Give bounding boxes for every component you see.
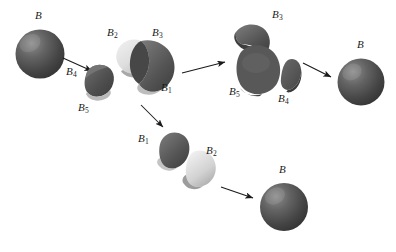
piece-b1-bottom [157, 133, 189, 171]
label-piece-b4-arrow: B4 [66, 66, 76, 77]
label-piece-b1-middle: B1 [161, 82, 171, 93]
label-piece-b3-middle-base: B [152, 26, 159, 38]
label-result-sphere-top-base: B [357, 38, 364, 50]
label-piece-b1-middle-base: B [161, 81, 168, 93]
label-piece-b2-middle: B2 [107, 27, 117, 38]
label-source-sphere: B [35, 10, 42, 21]
label-piece-b3-right: B3 [272, 9, 282, 20]
label-piece-b3-middle-sub: 3 [159, 31, 163, 40]
label-result-sphere-top: B [357, 39, 364, 50]
label-piece-b5-right: B5 [229, 86, 239, 97]
piece-b5-right [236, 45, 280, 96]
label-piece-b1-bottom-base: B [138, 132, 145, 144]
label-piece-b2-bottom-sub: 2 [213, 149, 217, 158]
label-piece-b5-left: B5 [78, 102, 88, 113]
label-piece-b2-middle-base: B [107, 26, 114, 38]
result-sphere-top [338, 59, 385, 106]
label-piece-b4-right-base: B [278, 92, 285, 104]
label-piece-b5-left-base: B [78, 101, 85, 113]
label-source-sphere-base: B [35, 9, 42, 21]
label-result-sphere-bottom-base: B [279, 163, 286, 175]
piece-b5-left [85, 65, 114, 101]
label-piece-b5-right-base: B [229, 85, 236, 97]
label-piece-b4-right-sub: 4 [285, 97, 289, 106]
arrow-split-to-bottom-row [141, 105, 163, 127]
label-piece-b2-bottom: B2 [206, 145, 216, 156]
figure-canvas [0, 0, 396, 252]
result-sphere-bottom [260, 183, 308, 231]
banach-tarski-figure: B B4 B5 B2 B3 B1 B3 B5 B4 B B1 B2 B [0, 0, 396, 252]
label-piece-b3-right-sub: 3 [279, 13, 283, 22]
label-piece-b1-bottom: B1 [138, 133, 148, 144]
label-piece-b3-middle: B3 [152, 27, 162, 38]
label-piece-b5-left-sub: 5 [85, 106, 89, 115]
label-piece-b1-bottom-sub: 1 [145, 137, 149, 146]
arrow-bottom-row-to-sphere [221, 187, 253, 198]
arrow-top-cluster-to-sphere [303, 63, 331, 77]
label-piece-b4-arrow-sub: 4 [73, 70, 77, 79]
piece-b4-right [281, 59, 302, 92]
label-piece-b5-right-sub: 5 [236, 90, 240, 99]
label-piece-b1-middle-sub: 1 [168, 86, 172, 95]
label-piece-b3-right-base: B [272, 8, 279, 20]
label-result-sphere-bottom: B [279, 164, 286, 175]
label-piece-b4-right: B4 [278, 93, 288, 104]
label-piece-b2-middle-sub: 2 [114, 31, 118, 40]
label-piece-b4-arrow-base: B [66, 65, 73, 77]
label-piece-b2-bottom-base: B [206, 144, 213, 156]
source-sphere [16, 30, 65, 79]
arrow-split-to-top-cluster [182, 62, 225, 73]
